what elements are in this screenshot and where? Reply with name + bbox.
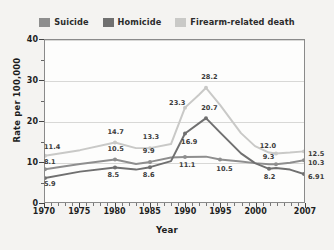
x-tick-label-1970: 1970 [29, 207, 59, 216]
x-tick-mark-1975 [79, 203, 80, 208]
x-tick-mark-1995 [220, 203, 221, 208]
value-label: 10.3 [308, 159, 324, 167]
value-label: 20.7 [201, 104, 217, 112]
y-axis-title: Rate per 100,000 [12, 45, 22, 155]
value-label: 10.5 [108, 145, 124, 153]
legend-item-suicide[interactable]: Suicide [39, 17, 88, 27]
marker-point [183, 155, 187, 159]
x-minor-tick-1993 [206, 203, 207, 206]
marker-point [274, 151, 278, 155]
x-tick-mark-2000 [256, 203, 257, 208]
value-label: 8.1 [44, 158, 56, 166]
value-label: 12.0 [260, 142, 276, 150]
marker-point [45, 167, 47, 171]
x-tick-label-1985: 1985 [135, 207, 165, 216]
value-label: 10.5 [216, 165, 232, 173]
y-tick-label-10: 10 [16, 158, 38, 167]
value-label: 5.9 [44, 180, 56, 188]
legend-label: Homicide [118, 17, 162, 27]
marker-point [148, 165, 152, 169]
legend-swatch-icon [103, 18, 114, 27]
x-minor-tick-1992 [199, 203, 200, 206]
x-tick-label-1990: 1990 [170, 207, 200, 216]
x-minor-tick-1972 [58, 203, 59, 206]
legend-swatch-icon [39, 18, 50, 27]
legend-label: Suicide [54, 17, 88, 27]
x-tick-mark-1990 [185, 203, 186, 208]
value-label: 9.3 [263, 153, 275, 161]
value-label: 28.2 [201, 73, 217, 81]
legend-item-firearm-related-death[interactable]: Firearm-related death [175, 17, 294, 27]
x-minor-tick-1999 [249, 203, 250, 206]
marker-point [218, 157, 222, 161]
marker-point [267, 167, 271, 171]
y-tick-label-40: 40 [16, 35, 38, 44]
legend-label: Firearm-related death [190, 17, 294, 27]
x-tick-label-2000: 2000 [241, 207, 271, 216]
value-label: 8.6 [143, 171, 155, 179]
value-label: 16.9 [181, 138, 197, 146]
marker-point [274, 162, 278, 166]
x-minor-tick-1986 [157, 203, 158, 206]
x-minor-tick-2003 [277, 203, 278, 206]
value-label: 13.3 [143, 133, 159, 141]
x-minor-tick-1983 [136, 203, 137, 206]
x-tick-label-1995: 1995 [205, 207, 235, 216]
x-minor-tick-1989 [178, 203, 179, 206]
marker-point [204, 86, 208, 90]
x-tick-mark-1970 [44, 203, 45, 208]
marker-point [302, 158, 304, 162]
value-label: 8.2 [264, 173, 276, 181]
x-minor-tick-1982 [129, 203, 130, 206]
x-axis-title: Year [0, 225, 334, 235]
marker-point [113, 157, 117, 161]
y-tick-label-20: 20 [16, 117, 38, 126]
x-minor-tick-2001 [263, 203, 264, 206]
x-minor-tick-1976 [86, 203, 87, 206]
value-label: 6.91 [308, 173, 324, 181]
x-minor-tick-1974 [72, 203, 73, 206]
value-label: 12.5 [308, 150, 324, 158]
x-minor-tick-1979 [107, 203, 108, 206]
x-minor-tick-1997 [234, 203, 235, 206]
x-minor-tick-2006 [298, 203, 299, 206]
marker-point [302, 149, 304, 153]
x-tick-label-2007: 2007 [290, 207, 320, 216]
value-label: 9.9 [143, 147, 155, 155]
value-label: 23.3 [169, 99, 185, 107]
x-minor-tick-1991 [192, 203, 193, 206]
x-minor-tick-1988 [171, 203, 172, 206]
x-minor-tick-1987 [164, 203, 165, 206]
x-tick-mark-1985 [150, 203, 151, 208]
marker-point [204, 116, 208, 120]
marker-point [148, 160, 152, 164]
value-label: 14.7 [108, 128, 124, 136]
x-minor-tick-1994 [213, 203, 214, 206]
x-minor-tick-2002 [270, 203, 271, 206]
x-minor-tick-1971 [51, 203, 52, 206]
chart-legend: SuicideHomicideFirearm-related death [0, 17, 334, 27]
legend-item-homicide[interactable]: Homicide [103, 17, 162, 27]
y-tick-label-30: 30 [16, 76, 38, 85]
x-minor-tick-1977 [93, 203, 94, 206]
chart-figure: SuicideHomicideFirearm-related death Rat… [0, 0, 334, 250]
x-minor-tick-1998 [242, 203, 243, 206]
x-tick-mark-2007 [305, 203, 306, 208]
marker-point [113, 140, 117, 144]
x-minor-tick-1981 [122, 203, 123, 206]
x-tick-label-1980: 1980 [100, 207, 130, 216]
x-tick-mark-1980 [115, 203, 116, 208]
x-minor-tick-1973 [65, 203, 66, 206]
x-tick-label-1975: 1975 [64, 207, 94, 216]
marker-point [183, 132, 187, 136]
marker-point [113, 166, 117, 170]
x-minor-tick-2005 [291, 203, 292, 206]
x-minor-tick-1978 [100, 203, 101, 206]
value-label: 11.1 [179, 161, 195, 169]
value-label: 11.4 [44, 143, 60, 151]
value-label: 8.5 [108, 171, 120, 179]
x-minor-tick-1996 [227, 203, 228, 206]
x-minor-tick-2004 [284, 203, 285, 206]
x-minor-tick-1984 [143, 203, 144, 206]
legend-swatch-icon [175, 18, 186, 27]
